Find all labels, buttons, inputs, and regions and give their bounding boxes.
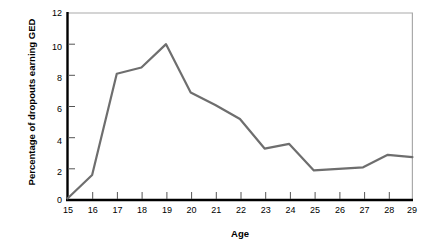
x-axis-label: Age [67,228,413,239]
x-tick-label: 23 [253,205,279,215]
x-tick-label: 21 [203,205,229,215]
x-tick-label: 29 [399,205,425,215]
y-axis-ticks [68,44,75,169]
x-tick-label: 20 [179,205,205,215]
x-tick-label: 24 [277,205,303,215]
chart-figure: Percentage of dropouts earning GED 12 10… [0,0,429,249]
x-tick-label: 22 [228,205,254,215]
x-tick-label: 25 [302,205,328,215]
x-tick-label: 19 [154,205,180,215]
x-tick-label: 15 [55,205,81,215]
x-axis-ticks [93,192,390,199]
x-tick-label: 16 [80,205,106,215]
x-tick-label: 18 [129,205,155,215]
x-tick-label: 26 [327,205,353,215]
x-axis-tick-labels: 15 16 17 18 19 20 21 22 23 24 25 26 27 2… [0,205,429,221]
data-series-line [68,44,413,198]
x-tick-label: 17 [104,205,130,215]
x-tick-label: 27 [352,205,378,215]
